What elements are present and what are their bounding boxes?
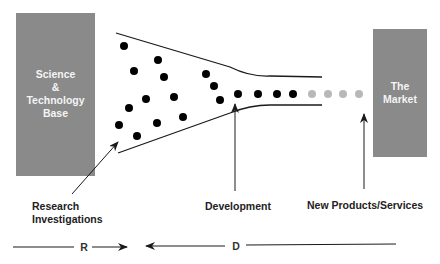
idea-dot (339, 90, 347, 98)
box-label-line: Science (36, 68, 76, 80)
r-axis-label: R (80, 241, 88, 253)
idea-dot (115, 121, 123, 129)
box-label-line: Technology (26, 94, 84, 106)
box-label-line: The (391, 80, 410, 92)
idea-dot (179, 113, 187, 121)
idea-dot (120, 42, 128, 50)
technology-funnel-diagram: Science & Technology Base The Market Res… (0, 0, 440, 264)
d-axis-line-right (246, 244, 396, 245)
idea-dot (133, 132, 141, 140)
products-caption: New Products/Services (307, 199, 423, 211)
funnel-top-line (116, 33, 322, 77)
box-label-line: Market (383, 93, 417, 105)
idea-dot (355, 90, 363, 98)
development-caption: Development (205, 200, 271, 212)
idea-dot (142, 95, 150, 103)
idea-dot (130, 67, 138, 75)
idea-dot (234, 90, 242, 98)
market-box: The Market (373, 29, 427, 157)
idea-dot (308, 90, 316, 98)
idea-dot (160, 73, 168, 81)
idea-dot (125, 104, 133, 112)
idea-dots-active (115, 42, 297, 140)
science-technology-base-box: Science & Technology Base (16, 13, 95, 176)
research-caption-line: Investigations (32, 213, 103, 225)
idea-dot (273, 90, 281, 98)
idea-dot (154, 56, 162, 64)
idea-dot (216, 96, 224, 104)
idea-dot (289, 90, 297, 98)
d-axis-label: D (232, 240, 240, 252)
idea-dot (170, 93, 178, 101)
idea-dots-future (308, 90, 363, 98)
funnel-bottom-line (118, 105, 322, 153)
idea-dot (202, 70, 210, 78)
box-label-line: Base (43, 107, 68, 119)
idea-dot (254, 90, 262, 98)
idea-dot (324, 90, 332, 98)
idea-dot (153, 119, 161, 127)
research-caption-line: Research (32, 200, 79, 212)
idea-dot (210, 82, 218, 90)
box-label-line: & (52, 81, 60, 93)
